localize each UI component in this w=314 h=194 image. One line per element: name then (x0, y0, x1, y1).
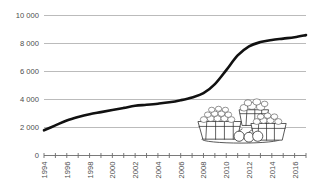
x-tick-label: 2014 (268, 162, 277, 179)
x-tick-label: 2012 (245, 162, 254, 179)
y-tick-label: 10 000 (16, 11, 39, 20)
y-tick-label: 0 (35, 151, 39, 160)
chart-canvas: 02 0004 0006 0008 00010 000 199419961998… (0, 0, 314, 194)
x-tick-label: 2016 (291, 162, 300, 179)
x-tick-label: 1996 (63, 162, 72, 179)
x-tick-label: 2008 (199, 162, 208, 179)
x-tick-label: 1998 (86, 162, 95, 179)
fruit-baskets-illustration (198, 99, 286, 143)
y-axis-labels: 02 0004 0006 0008 00010 000 (16, 11, 39, 160)
x-axis-labels: 1994199619982000200220042006200820102012… (40, 162, 300, 179)
x-tick-label: 2004 (154, 162, 163, 179)
x-tick-label: 2006 (177, 162, 186, 179)
y-tick-label: 8 000 (20, 39, 39, 48)
x-tick-label: 1994 (40, 162, 49, 179)
x-tick-label: 2010 (222, 162, 231, 179)
x-tick-label: 2002 (131, 162, 140, 179)
x-tick-label: 2000 (108, 162, 117, 179)
y-tick-label: 4 000 (20, 95, 39, 104)
line-chart: 02 0004 0006 0008 00010 000 199419961998… (0, 0, 314, 194)
y-tick-label: 2 000 (20, 123, 39, 132)
y-tick-label: 6 000 (20, 67, 39, 76)
